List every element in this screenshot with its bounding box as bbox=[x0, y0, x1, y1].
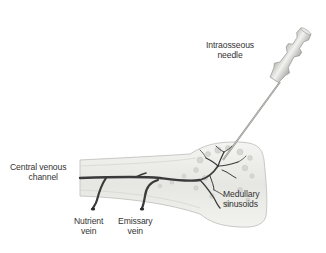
label-intraosseous-needle: Intraosseous needle bbox=[206, 40, 254, 60]
label-nutrient-vein: Nutrient vein bbox=[74, 216, 103, 236]
nutrient-vein-end bbox=[91, 207, 95, 210]
label-central-venous-channel: Central venous channel bbox=[10, 162, 66, 182]
label-emissary-vein: Emissary vein bbox=[118, 216, 153, 236]
label-medullary-sinusoids: Medullary sinusoids bbox=[223, 189, 259, 209]
intraosseous-diagram bbox=[0, 0, 326, 253]
emissary-vein-end bbox=[140, 207, 144, 210]
